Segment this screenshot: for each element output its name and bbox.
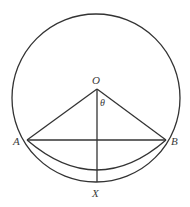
outer-circle — [12, 14, 180, 182]
label-b: B — [171, 135, 178, 147]
radius-oa — [27, 89, 97, 140]
label-o: O — [92, 74, 100, 86]
label-theta: θ — [100, 97, 105, 108]
label-x: X — [91, 187, 100, 199]
radius-ob — [97, 89, 166, 140]
circle-geometry-diagram: O θ A B X — [0, 0, 190, 207]
label-a: A — [12, 135, 20, 147]
